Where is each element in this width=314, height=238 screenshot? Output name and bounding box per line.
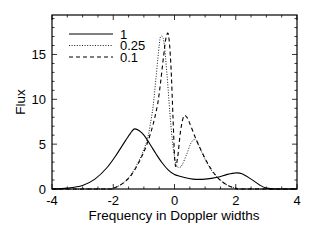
plot-frame xyxy=(52,15,297,189)
x-tick-label: 0 xyxy=(171,193,178,208)
x-tick-label: -2 xyxy=(107,193,119,208)
y-tick-labels: 051015 xyxy=(32,47,46,197)
x-tick-label: 2 xyxy=(232,193,239,208)
y-tick-label: 0 xyxy=(39,182,46,197)
axis-ticks xyxy=(52,15,297,189)
line-chart: -4-2024 051015 Frequency in Doppler widt… xyxy=(0,0,314,238)
plot-curves xyxy=(52,33,297,189)
legend-label: 0.1 xyxy=(120,50,138,65)
y-tick-label: 10 xyxy=(32,92,46,107)
x-tick-labels: -4-2024 xyxy=(46,193,300,208)
y-axis-label: Flux xyxy=(13,89,28,115)
legend: 10.250.1 xyxy=(69,27,145,65)
series-line-0.25 xyxy=(52,36,297,189)
x-axis-label: Frequency in Doppler widths xyxy=(88,208,259,223)
y-tick-label: 15 xyxy=(32,47,46,62)
x-tick-label: -4 xyxy=(46,193,58,208)
y-tick-label: 5 xyxy=(39,137,46,152)
series-line-0.1 xyxy=(52,33,297,189)
x-tick-label: 4 xyxy=(293,193,300,208)
